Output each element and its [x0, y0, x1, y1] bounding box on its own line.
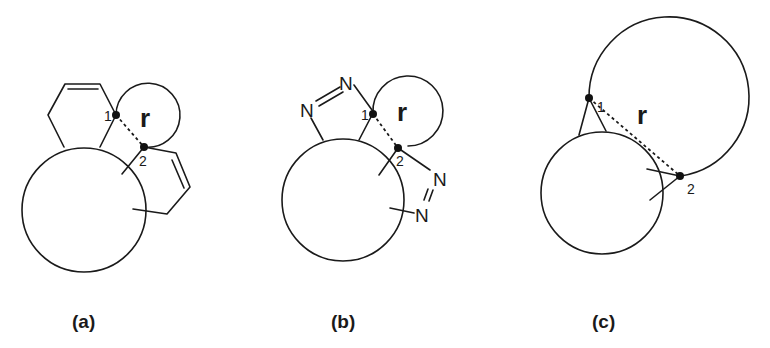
panel-label-c: (c)	[592, 311, 615, 332]
atom-2-label: 2	[687, 181, 695, 197]
distance-line	[373, 114, 398, 148]
atom-1-dot	[112, 111, 120, 119]
ring-closure-arc	[373, 76, 443, 146]
double-bond-line	[316, 87, 340, 101]
macrocycle-ring	[282, 139, 404, 261]
atom-1-dot	[585, 94, 593, 102]
nitrogen-label: N	[433, 169, 447, 190]
panel-label-b: (b)	[331, 311, 355, 332]
atom-1-label: 1	[597, 99, 605, 115]
atom-1-label: 1	[361, 107, 369, 123]
double-bond-line	[319, 92, 343, 106]
bond-line	[650, 176, 680, 200]
panel-a: 1 2 r (a)	[22, 83, 190, 332]
atom-2-dot	[140, 143, 148, 151]
panel-b: N N N N 1 2 r (b)	[282, 73, 447, 332]
atom-2-label: 2	[396, 153, 404, 169]
panel-c: 1 2 r (c)	[541, 17, 749, 332]
distance-r-label: r	[397, 97, 407, 127]
bond-line	[579, 98, 589, 135]
double-bond-line	[424, 189, 428, 200]
atom-1-label: 1	[104, 108, 112, 124]
nitrogen-label: N	[339, 73, 353, 94]
double-bond-line	[429, 190, 433, 201]
atom-2-dot	[394, 144, 402, 152]
macrocycle-ring	[541, 132, 663, 254]
atom-2-dot	[676, 172, 684, 180]
nitrogen-label: N	[300, 100, 314, 121]
bond-line	[311, 118, 323, 140]
ring-closure-arc	[589, 17, 749, 176]
double-bond-line	[172, 160, 184, 188]
bond-line	[647, 169, 680, 176]
nitrogen-label: N	[415, 205, 429, 226]
distance-r-label: r	[140, 103, 150, 133]
atom-1-dot	[369, 110, 377, 118]
figure-canvas: 1 2 r (a) N N N N 1 2 r	[0, 0, 770, 348]
panel-label-a: (a)	[72, 311, 95, 332]
distance-r-label: r	[637, 100, 647, 130]
atom-2-label: 2	[139, 153, 147, 169]
